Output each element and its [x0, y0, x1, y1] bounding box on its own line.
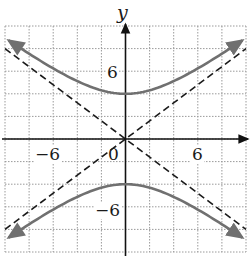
x-tick-6: 6	[191, 146, 204, 163]
y-tick-neg6: −6	[94, 202, 121, 219]
x-tick-neg6: −6	[34, 146, 61, 163]
y-tick-6: 6	[106, 64, 119, 81]
hyperbola-plot	[0, 0, 251, 257]
origin-label: 0	[107, 146, 120, 163]
y-axis-label: y	[117, 1, 128, 23]
